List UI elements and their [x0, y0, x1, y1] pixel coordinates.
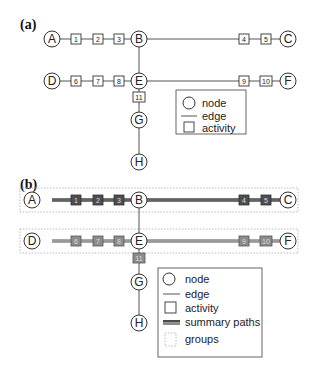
svg-text:6: 6 — [74, 78, 78, 85]
node-c[interactable]: C — [280, 31, 296, 47]
svg-text:F: F — [284, 74, 291, 88]
activity-5[interactable]: 5 — [261, 34, 271, 44]
activity-11[interactable]: 11 — [133, 253, 145, 263]
legend-b: node edge activity summary paths groups — [158, 268, 262, 357]
node-h[interactable]: H — [131, 315, 147, 331]
svg-text:10: 10 — [262, 78, 270, 85]
svg-text:D: D — [48, 74, 57, 88]
node-d[interactable]: D — [24, 233, 40, 249]
svg-text:4: 4 — [242, 36, 246, 43]
svg-text:C: C — [284, 32, 293, 46]
activity-11[interactable]: 11 — [133, 92, 145, 102]
activity-10[interactable]: 10 — [260, 236, 272, 246]
svg-text:D: D — [28, 234, 37, 248]
svg-text:9: 9 — [242, 78, 246, 85]
svg-text:5: 5 — [264, 197, 268, 204]
svg-text:3: 3 — [117, 36, 121, 43]
svg-text:C: C — [284, 193, 293, 207]
activity-6[interactable]: 6 — [71, 76, 81, 86]
svg-text:E: E — [135, 74, 143, 88]
node-g[interactable]: G — [131, 274, 147, 290]
panel-a-label: (a) — [20, 17, 37, 33]
legend-edge-label: edge — [185, 288, 209, 300]
legend-edge-label: edge — [202, 110, 226, 122]
legend-node-icon — [163, 273, 175, 285]
activity-9[interactable]: 9 — [239, 236, 249, 246]
node-g[interactable]: G — [131, 112, 147, 128]
svg-text:9: 9 — [242, 238, 246, 245]
svg-text:H: H — [135, 155, 144, 169]
svg-text:B: B — [135, 193, 143, 207]
legend-summary-paths-icon — [163, 320, 180, 325]
activity-2[interactable]: 2 — [93, 195, 103, 205]
activity-3[interactable]: 3 — [114, 195, 124, 205]
workflow-diagram: (a) 1 2 3 4 5 6 7 8 9 10 11 A B C D E F … — [0, 0, 310, 374]
activity-9[interactable]: 9 — [239, 76, 249, 86]
svg-text:7: 7 — [96, 78, 100, 85]
activity-8[interactable]: 8 — [114, 236, 124, 246]
activity-7[interactable]: 7 — [93, 76, 103, 86]
svg-text:G: G — [134, 275, 143, 289]
node-b[interactable]: B — [131, 192, 147, 208]
panel-b-label: (b) — [20, 177, 37, 193]
legend-a: node edge activity — [176, 90, 246, 134]
activity-4[interactable]: 4 — [239, 34, 249, 44]
svg-text:11: 11 — [135, 255, 142, 262]
legend-groups-label: groups — [185, 333, 219, 345]
svg-text:8: 8 — [117, 238, 121, 245]
svg-text:1: 1 — [74, 197, 78, 204]
legend-activity-icon — [184, 122, 194, 132]
activity-3[interactable]: 3 — [114, 34, 124, 44]
svg-text:A: A — [28, 193, 36, 207]
node-d[interactable]: D — [44, 73, 60, 89]
legend-activity-label: activity — [185, 302, 219, 314]
node-e[interactable]: E — [131, 233, 147, 249]
node-f[interactable]: F — [280, 73, 296, 89]
panel-a: (a) 1 2 3 4 5 6 7 8 9 10 11 A B C D E F … — [20, 17, 296, 170]
svg-text:B: B — [135, 32, 143, 46]
svg-text:1: 1 — [74, 36, 78, 43]
activity-8[interactable]: 8 — [114, 76, 124, 86]
activity-10[interactable]: 10 — [260, 76, 272, 86]
svg-text:E: E — [135, 234, 143, 248]
svg-text:A: A — [48, 32, 56, 46]
legend-node-icon — [183, 97, 195, 109]
activity-1[interactable]: 1 — [71, 34, 81, 44]
svg-text:11: 11 — [135, 94, 142, 101]
node-c[interactable]: C — [280, 192, 296, 208]
activity-6[interactable]: 6 — [71, 236, 81, 246]
activity-2[interactable]: 2 — [93, 34, 103, 44]
svg-text:8: 8 — [117, 78, 121, 85]
legend-activity-icon — [165, 302, 176, 313]
activity-5[interactable]: 5 — [261, 195, 271, 205]
svg-text:H: H — [135, 316, 144, 330]
legend-activity-label: activity — [202, 122, 236, 134]
svg-text:3: 3 — [117, 197, 121, 204]
activity-1[interactable]: 1 — [71, 195, 81, 205]
svg-text:F: F — [284, 234, 291, 248]
activity-7[interactable]: 7 — [93, 236, 103, 246]
legend-summary-paths-label: summary paths — [185, 316, 261, 328]
node-a[interactable]: A — [44, 31, 60, 47]
panel-b: (b) 1 2 3 4 5 6 7 8 9 10 11 A B C D E F … — [20, 177, 298, 357]
svg-text:4: 4 — [242, 197, 246, 204]
svg-text:5: 5 — [264, 36, 268, 43]
legend-node-label: node — [202, 97, 226, 109]
node-e[interactable]: E — [131, 73, 147, 89]
node-f[interactable]: F — [280, 233, 296, 249]
node-h[interactable]: H — [131, 154, 147, 170]
svg-text:2: 2 — [96, 36, 100, 43]
svg-text:6: 6 — [74, 238, 78, 245]
legend-node-label: node — [185, 273, 209, 285]
svg-text:10: 10 — [262, 238, 270, 245]
node-b[interactable]: B — [131, 31, 147, 47]
svg-text:2: 2 — [96, 197, 100, 204]
activity-4[interactable]: 4 — [239, 195, 249, 205]
node-a[interactable]: A — [24, 192, 40, 208]
svg-text:G: G — [134, 113, 143, 127]
svg-text:7: 7 — [96, 238, 100, 245]
